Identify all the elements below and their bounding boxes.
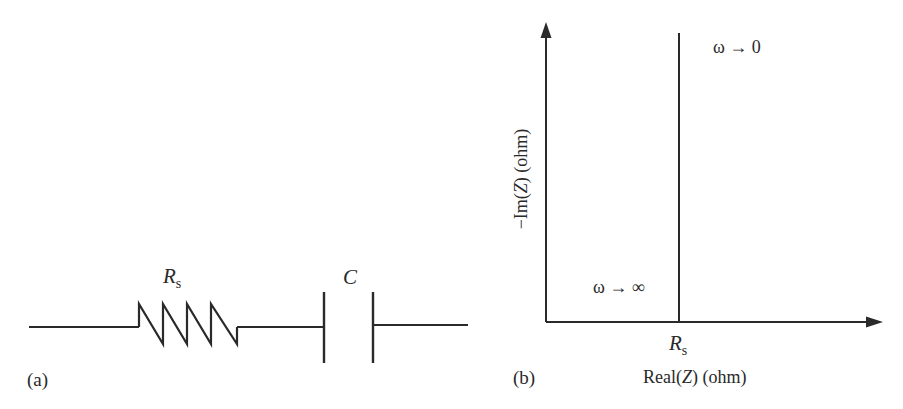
x-axis-arrow-icon	[866, 317, 883, 328]
x-tick-rs-label: Rs	[668, 331, 687, 358]
x-axis-label: Real(Z) (ohm)	[643, 367, 746, 388]
panel-b-label: (b)	[513, 367, 535, 389]
resistor-label: Rs	[162, 264, 181, 291]
capacitor-icon	[324, 292, 373, 363]
panel-a-label: (a)	[27, 369, 48, 391]
y-axis-arrow-icon	[541, 22, 552, 38]
y-axis-label: −Im(Z) (ohm)	[511, 129, 532, 230]
panel-b-nyquist-plot: −Im(Z) (ohm) Rs Real(Z) (ohm) ω → 0 ω → …	[511, 22, 883, 389]
high-frequency-annotation: ω → ∞	[593, 277, 645, 297]
panel-a-circuit: Rs C (a)	[27, 264, 468, 391]
diagram-canvas: Rs C (a) −Im(Z) (ohm) Rs Real(Z) (ohm) ω…	[0, 0, 903, 409]
resistor-icon	[139, 304, 237, 344]
low-frequency-annotation: ω → 0	[713, 37, 761, 57]
capacitor-label: C	[343, 265, 358, 289]
